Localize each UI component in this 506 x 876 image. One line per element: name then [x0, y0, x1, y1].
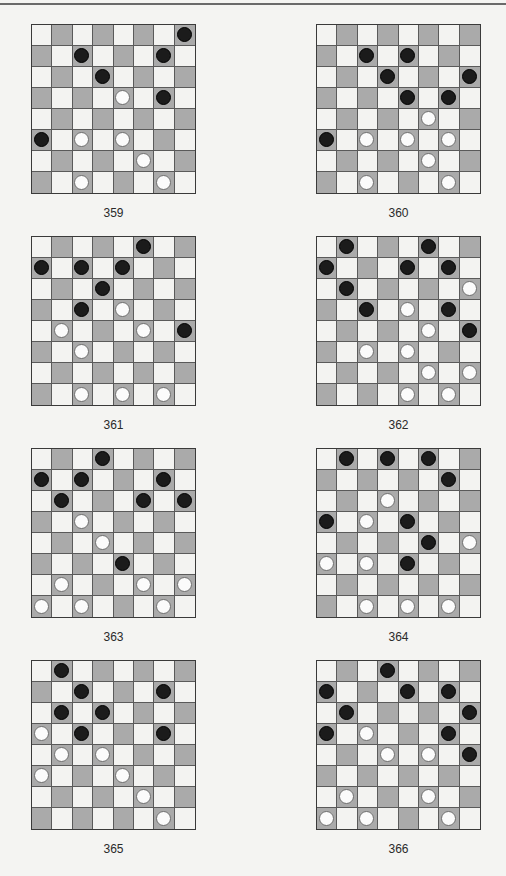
light-square	[154, 363, 174, 384]
light-square	[175, 88, 195, 109]
black-checker-piece	[34, 260, 49, 275]
puzzle-number: 359	[31, 206, 196, 220]
light-square	[73, 151, 93, 172]
dark-square	[378, 321, 398, 342]
light-square	[52, 258, 72, 279]
dark-square	[114, 300, 134, 321]
light-square	[439, 491, 459, 512]
dark-square	[399, 300, 419, 321]
dark-square	[419, 661, 439, 682]
light-square	[337, 172, 357, 193]
dark-square	[378, 25, 398, 46]
dark-square	[419, 787, 439, 808]
light-square	[175, 808, 195, 829]
dark-square	[73, 342, 93, 363]
dark-square	[317, 258, 337, 279]
light-square	[93, 130, 113, 151]
light-square	[358, 575, 378, 596]
light-square	[460, 682, 480, 703]
light-square	[399, 533, 419, 554]
white-checker-piece	[74, 387, 89, 402]
light-square	[358, 67, 378, 88]
light-square	[399, 237, 419, 258]
light-square	[378, 682, 398, 703]
white-checker-piece	[421, 747, 436, 762]
light-square	[439, 363, 459, 384]
dark-square	[175, 703, 195, 724]
light-square	[419, 682, 439, 703]
light-square	[419, 88, 439, 109]
black-checker-piece	[74, 302, 89, 317]
light-square	[73, 575, 93, 596]
dark-square	[32, 46, 52, 67]
dark-square	[378, 533, 398, 554]
light-square	[52, 384, 72, 405]
black-checker-piece	[359, 48, 374, 63]
dark-square	[93, 491, 113, 512]
dark-square	[175, 363, 195, 384]
light-square	[337, 130, 357, 151]
light-square	[73, 491, 93, 512]
light-square	[32, 575, 52, 596]
light-square	[32, 787, 52, 808]
dark-square	[358, 130, 378, 151]
dark-square	[317, 766, 337, 787]
light-square	[419, 808, 439, 829]
dark-square	[419, 279, 439, 300]
puzzle-364: 364	[316, 448, 481, 618]
dark-square	[114, 46, 134, 67]
dark-square	[419, 745, 439, 766]
light-square	[419, 130, 439, 151]
dark-square	[32, 88, 52, 109]
light-square	[154, 151, 174, 172]
white-checker-piece	[359, 811, 374, 826]
dark-square	[93, 703, 113, 724]
white-checker-piece	[441, 811, 456, 826]
dark-square	[399, 172, 419, 193]
white-checker-piece	[74, 599, 89, 614]
light-square	[419, 258, 439, 279]
dark-square	[134, 449, 154, 470]
dark-square	[337, 67, 357, 88]
puzzle-361: 361	[31, 236, 196, 406]
light-square	[337, 470, 357, 491]
black-checker-piece	[34, 132, 49, 147]
light-square	[175, 46, 195, 67]
dark-square	[337, 491, 357, 512]
light-square	[337, 258, 357, 279]
checkerboard	[31, 236, 196, 406]
light-square	[358, 321, 378, 342]
dark-square	[419, 321, 439, 342]
black-checker-piece	[95, 705, 110, 720]
light-square	[439, 109, 459, 130]
dark-square	[358, 46, 378, 67]
white-checker-piece	[136, 789, 151, 804]
light-square	[399, 449, 419, 470]
dark-square	[419, 449, 439, 470]
dark-square	[419, 67, 439, 88]
white-checker-piece	[156, 387, 171, 402]
dark-square	[114, 470, 134, 491]
dark-square	[439, 596, 459, 617]
light-square	[317, 575, 337, 596]
dark-square	[52, 151, 72, 172]
white-checker-piece	[319, 556, 334, 571]
black-checker-piece	[74, 726, 89, 741]
dark-square	[439, 554, 459, 575]
light-square	[460, 300, 480, 321]
white-checker-piece	[34, 726, 49, 741]
dark-square	[337, 151, 357, 172]
light-square	[460, 808, 480, 829]
puzzle-number: 364	[316, 630, 481, 644]
white-checker-piece	[421, 153, 436, 168]
dark-square	[337, 703, 357, 724]
light-square	[358, 363, 378, 384]
white-checker-piece	[441, 132, 456, 147]
light-square	[317, 279, 337, 300]
dark-square	[114, 342, 134, 363]
dark-square	[399, 130, 419, 151]
light-square	[114, 703, 134, 724]
dark-square	[93, 745, 113, 766]
light-square	[358, 787, 378, 808]
light-square	[154, 787, 174, 808]
